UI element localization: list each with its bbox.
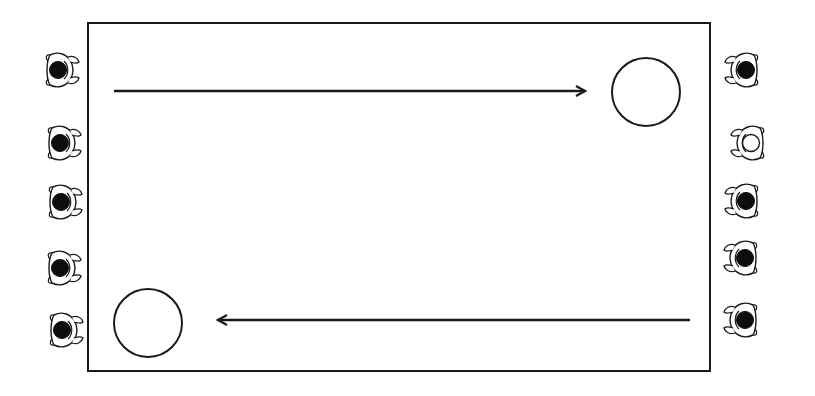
person-right-4 <box>724 241 757 275</box>
head-icon <box>50 62 67 79</box>
person-left-3 <box>49 185 82 219</box>
head-icon <box>53 194 70 211</box>
head-icon <box>738 62 755 79</box>
person-left-2 <box>48 126 81 160</box>
head-icon <box>52 135 69 152</box>
people-left-group <box>46 53 83 347</box>
person-right-3 <box>725 184 758 218</box>
person-right-5 <box>724 303 757 337</box>
target-bottom-left <box>114 289 182 357</box>
head-icon <box>738 193 755 210</box>
person-right-2 <box>731 126 764 160</box>
person-left-1 <box>46 53 79 87</box>
person-right-1 <box>725 53 758 87</box>
diagram-canvas <box>0 0 815 396</box>
head-icon <box>737 250 754 267</box>
head-icon <box>52 260 69 277</box>
target-top-right <box>612 58 680 126</box>
people-right-group <box>724 53 764 337</box>
person-left-4 <box>48 251 81 285</box>
head-icon <box>54 322 71 339</box>
arrows-group <box>114 91 690 320</box>
targets-group <box>114 58 680 357</box>
head-icon <box>737 312 754 329</box>
person-left-5 <box>50 313 83 347</box>
head-icon <box>743 135 760 152</box>
